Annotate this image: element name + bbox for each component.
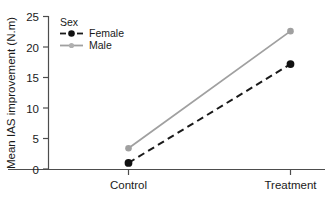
legend-label-female: Female — [89, 27, 124, 39]
y-tick-label-10: 10 — [26, 103, 39, 115]
series-female-point-treatment — [287, 60, 295, 68]
y-tick-label-5: 5 — [33, 133, 39, 145]
series-female-point-control — [125, 159, 133, 167]
y-tick-label-0: 0 — [33, 164, 39, 176]
x-tick-label-control: Control — [110, 179, 147, 191]
y-tick-label-25: 25 — [26, 11, 39, 23]
y-tick-label-15: 15 — [26, 72, 39, 84]
y-axis-title: Mean IAS improvement (N.m) — [5, 17, 17, 169]
legend-female-marker — [68, 30, 75, 37]
legend-label-male: Male — [89, 39, 112, 51]
series-male-point-control — [125, 145, 132, 152]
series-male-point-treatment — [287, 28, 294, 35]
legend-male-marker — [69, 43, 74, 48]
chart-figure: 25 20 15 10 5 0 Mean IAS improvement (N.… — [0, 0, 331, 204]
interaction-plot: 25 20 15 10 5 0 Mean IAS improvement (N.… — [0, 0, 331, 204]
plot-background — [0, 0, 331, 204]
legend-title: Sex — [60, 16, 79, 28]
y-tick-label-20: 20 — [26, 42, 39, 54]
x-tick-label-treatment: Treatment — [265, 179, 318, 191]
